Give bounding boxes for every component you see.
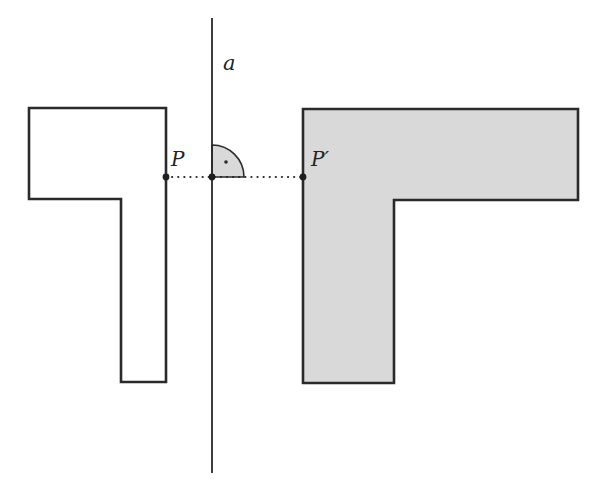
original-l-shape [29,108,166,382]
axis-label: a [223,51,236,75]
point-p-prime [300,174,307,181]
point-p [163,174,170,181]
reflection-diagram: a P P′ [0,0,595,492]
point-p-prime-label: P′ [310,147,329,171]
reflected-l-shape [303,109,578,383]
point-foot [209,174,216,181]
point-p-label: P [170,147,185,171]
right-angle-mark [212,145,244,177]
right-angle-dot [224,160,228,164]
